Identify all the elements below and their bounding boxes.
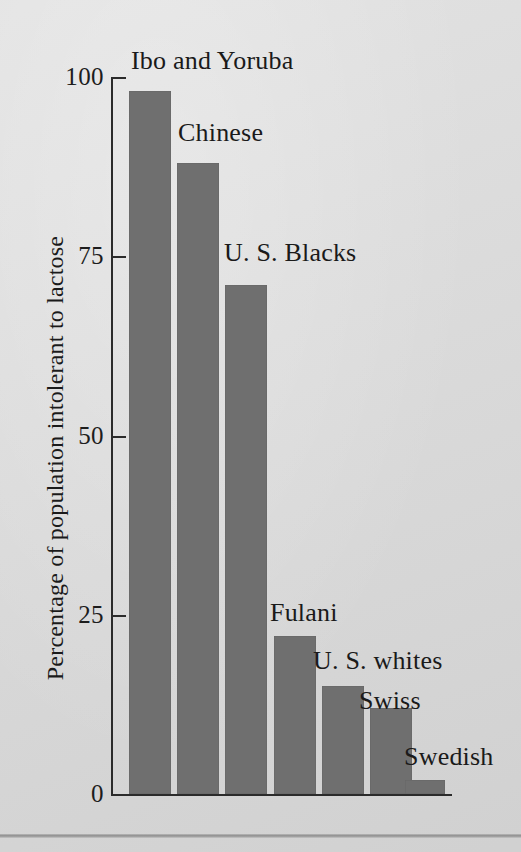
bar-label-ibo-and-yoruba: Ibo and Yoruba xyxy=(131,48,293,74)
bar-label-fulani: Fulani xyxy=(270,600,338,626)
bar-ibo-and-yoruba[interactable] xyxy=(129,91,171,794)
y-axis-title: Percentage of population intolerant to l… xyxy=(43,198,67,718)
bar-label-swiss: Swiss xyxy=(359,688,421,714)
y-axis-tick-label-75-wrap: 75 xyxy=(40,243,104,269)
bar-label-swedish: Swedish xyxy=(404,744,494,770)
y-axis-tick-100 xyxy=(113,77,126,79)
bar-chinese[interactable] xyxy=(177,163,219,794)
y-axis-tick-label-0: 0 xyxy=(40,781,104,806)
bar-label-us-blacks: U. S. Blacks xyxy=(224,240,356,266)
y-axis-tick-label-50-wrap: 50 xyxy=(40,423,104,449)
page-bottom-rule xyxy=(0,834,521,838)
y-axis-tick-label-100: 100 xyxy=(40,64,104,89)
bar-us-whites[interactable] xyxy=(322,686,364,794)
y-axis-tick-50 xyxy=(113,436,126,438)
y-axis-tick-label-100-wrap: 100 xyxy=(40,64,104,90)
y-axis-tick-75 xyxy=(113,256,126,258)
x-axis-line xyxy=(111,794,452,796)
y-axis-tick-label-25-wrap: 25 xyxy=(40,602,104,628)
bar-swedish[interactable] xyxy=(405,780,445,794)
y-axis-tick-label-25: 25 xyxy=(40,602,104,627)
chart-figure: Percentage of population intolerant to l… xyxy=(0,0,521,852)
y-axis-tick-0 xyxy=(113,794,126,796)
bar-us-blacks[interactable] xyxy=(225,285,267,794)
y-axis-tick-label-50: 50 xyxy=(40,423,104,448)
y-axis-tick-label-75: 75 xyxy=(40,243,104,268)
bar-fulani[interactable] xyxy=(274,636,316,794)
bar-label-us-whites: U. S. whites xyxy=(313,648,443,674)
bar-label-chinese: Chinese xyxy=(178,120,263,146)
y-axis-tick-25 xyxy=(113,615,126,617)
y-axis-tick-label-0-wrap: 0 xyxy=(40,781,104,807)
bar-chart-plot-area: Percentage of population intolerant to l… xyxy=(0,0,521,852)
